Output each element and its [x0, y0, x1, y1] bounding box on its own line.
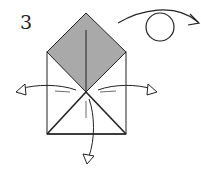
turn-over-icon [118, 10, 199, 41]
folded-paper [47, 13, 126, 134]
step-number: 3 [20, 11, 32, 33]
origami-diagram: 3 [0, 0, 201, 178]
